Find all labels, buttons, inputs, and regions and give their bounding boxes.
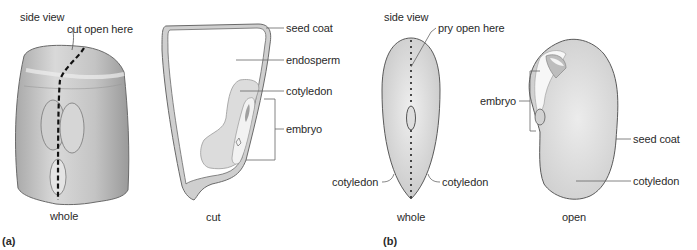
seed-coat-label-a: seed coat — [286, 22, 333, 34]
seed-coat-label-b: seed coat — [633, 133, 680, 145]
corn-kernel-whole-illustration — [16, 28, 129, 205]
pry-open-here-label: pry open here — [438, 22, 505, 34]
cut-open-here-label: cut open here — [67, 23, 133, 35]
embryo-label-b: embryo — [480, 95, 516, 107]
cotyledon-right-label-b: cotyledon — [442, 176, 488, 188]
corn-kernel-cut-illustration — [162, 24, 271, 200]
panel-a-letter: (a) — [2, 235, 15, 247]
endosperm-label: endosperm — [286, 54, 340, 66]
panel-b-open-caption: open — [562, 211, 586, 223]
panel-b-side-view-label: side view — [384, 11, 428, 23]
panel-a-whole-caption: whole — [50, 210, 78, 222]
bean-whole-illustration — [382, 38, 440, 199]
bean-open-illustration — [529, 39, 618, 199]
panel-a-cut-caption: cut — [206, 211, 220, 223]
cotyledon-left-label-b: cotyledon — [332, 176, 378, 188]
panel-b-letter: (b) — [383, 235, 397, 247]
cotyledon-label-b-open: cotyledon — [633, 175, 679, 187]
cotyledon-label-a: cotyledon — [286, 85, 332, 97]
embryo-label-a: embryo — [286, 123, 322, 135]
seed-diagram-artwork — [0, 0, 697, 250]
panel-a-side-view-label: side view — [20, 11, 64, 23]
panel-b-whole-caption: whole — [397, 211, 425, 223]
